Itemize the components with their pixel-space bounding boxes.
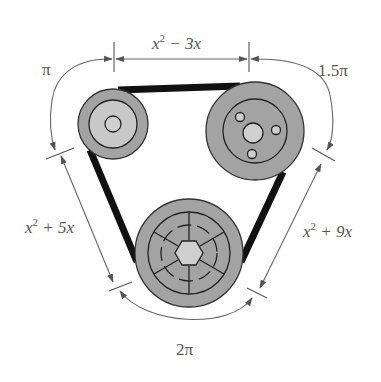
- top-right-pulley: [206, 82, 304, 180]
- arc-top-left-label: π: [42, 60, 51, 79]
- left-segment-dimension: x2 + 5x: [24, 156, 132, 291]
- center-hub: [105, 116, 121, 132]
- bolt-hole: [236, 113, 245, 122]
- bolt-hole: [272, 126, 281, 135]
- belt-left-segment: [90, 150, 137, 262]
- belt-right-segment: [241, 172, 283, 262]
- arc-bottom-label: 2π: [176, 340, 194, 359]
- bolt-hole: [248, 150, 257, 159]
- center-hub: [243, 123, 263, 143]
- left-segment-label: x2 + 5x: [24, 216, 75, 237]
- top-segment-label: x2 − 3x: [151, 32, 202, 53]
- right-segment-label: x2 + 9x: [302, 220, 353, 241]
- hexagonal-hub: [175, 241, 203, 265]
- pulley-belt-diagram: x2 − 3x π 1.5π x2 + 5x x2 + 9x 2π: [0, 0, 381, 382]
- belt-top-segment: [118, 86, 240, 90]
- top-segment-dimension: x2 − 3x: [114, 32, 249, 72]
- top-left-pulley: [78, 89, 148, 159]
- arc-top-right-label: 1.5π: [318, 61, 348, 80]
- right-segment-dimension: x2 + 9x: [247, 164, 353, 298]
- bottom-pulley: [135, 199, 243, 307]
